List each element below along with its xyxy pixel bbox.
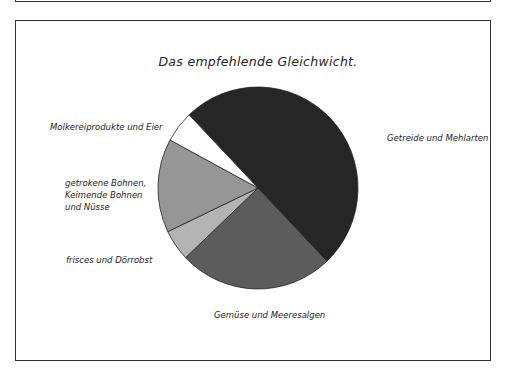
label-molkerei: Molkereiprodukte und Eier: [50, 122, 163, 132]
label-bohnen-3: und Nüsse: [65, 202, 110, 212]
pie-chart: Das empfehlende Gleichwicht. Getreide un…: [0, 0, 508, 368]
label-gemuese: Gemüse und Meeresalgen: [214, 310, 325, 320]
chart-title: Das empfehlende Gleichwicht.: [158, 54, 357, 69]
label-bohnen-2: Keimende Bohnen: [65, 190, 143, 200]
label-bohnen-1: getrokene Bohnen,: [65, 178, 146, 188]
label-getreide: Getreide und Mehlarten: [387, 133, 488, 143]
label-obst: frisces und Dörrobst: [66, 255, 153, 265]
pie-slices: [158, 87, 358, 289]
